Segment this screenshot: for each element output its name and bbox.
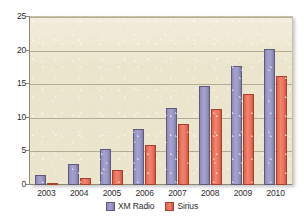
bar-xm-radio-2007[interactable] xyxy=(166,108,177,185)
legend-label: XM Radio xyxy=(118,201,155,211)
y-axis-label-5: 5 xyxy=(2,146,26,154)
y-axis-line xyxy=(29,16,30,185)
legend-item-sirius[interactable]: Sirius xyxy=(165,201,198,211)
y-axis-label-25: 25 xyxy=(2,12,26,20)
bar-sirius-2006[interactable] xyxy=(145,145,156,185)
bar-xm-radio-2005[interactable] xyxy=(100,149,111,185)
bar-sirius-2009[interactable] xyxy=(243,94,254,185)
bar-sirius-2007[interactable] xyxy=(178,124,189,185)
plot-area xyxy=(30,16,293,185)
y-tick-15 xyxy=(26,83,30,84)
bar-groups xyxy=(30,17,292,185)
bar-xm-radio-2009[interactable] xyxy=(231,66,242,185)
bar-group-2010 xyxy=(259,17,292,185)
x-axis-label-2010: 2010 xyxy=(256,188,296,198)
bar-xm-radio-2010[interactable] xyxy=(264,49,275,185)
bar-group-2009 xyxy=(227,17,260,185)
bar-group-2004 xyxy=(63,17,96,185)
bar-group-2005 xyxy=(96,17,129,185)
legend-swatch-xm-radio-icon xyxy=(106,202,115,211)
y-tick-20 xyxy=(26,50,30,51)
bar-sirius-2010[interactable] xyxy=(276,76,287,185)
legend-item-xm-radio[interactable]: XM Radio xyxy=(106,201,155,211)
bar-xm-radio-2006[interactable] xyxy=(133,129,144,185)
bar-group-2006 xyxy=(128,17,161,185)
y-tick-0 xyxy=(26,184,30,185)
bar-xm-radio-2004[interactable] xyxy=(68,164,79,186)
y-axis-label-10: 10 xyxy=(2,113,26,121)
y-axis-label-20: 20 xyxy=(2,46,26,54)
chart-legend: XM RadioSirius xyxy=(0,201,304,211)
y-tick-5 xyxy=(26,150,30,151)
bar-sirius-2008[interactable] xyxy=(211,109,222,185)
y-tick-25 xyxy=(26,16,30,17)
y-axis-label-15: 15 xyxy=(2,79,26,87)
bar-group-2007 xyxy=(161,17,194,185)
bar-group-2008 xyxy=(194,17,227,185)
bar-xm-radio-2008[interactable] xyxy=(199,86,210,185)
legend-swatch-sirius-icon xyxy=(165,202,174,211)
legend-label: Sirius xyxy=(177,201,198,211)
bar-chart-figure: 0510152025 20032004200520062007200820092… xyxy=(0,0,304,220)
bar-sirius-2005[interactable] xyxy=(112,170,123,185)
y-tick-10 xyxy=(26,117,30,118)
y-axis-label-0: 0 xyxy=(2,180,26,188)
bar-group-2003 xyxy=(30,17,63,185)
bar-xm-radio-2003[interactable] xyxy=(35,175,46,185)
bar-sirius-2003[interactable] xyxy=(47,183,58,185)
bar-sirius-2004[interactable] xyxy=(80,178,91,185)
